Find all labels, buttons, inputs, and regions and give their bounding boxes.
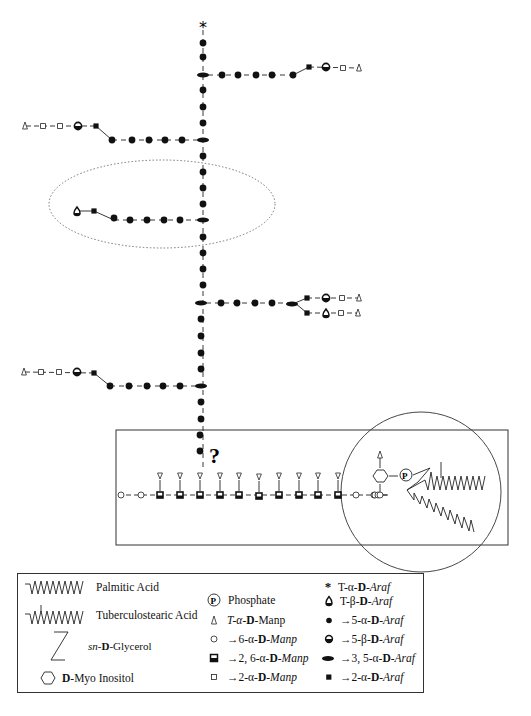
label-rest: -Manp [266, 633, 297, 645]
drop-icon [324, 595, 334, 607]
label-d: D [371, 671, 379, 683]
label-pre: →2, 6-α- [227, 652, 269, 664]
phosphate-icon: P [207, 593, 221, 607]
filled-circle-icon [324, 614, 334, 626]
star-icon: * [322, 579, 334, 595]
label-d: D [382, 652, 390, 664]
legend-myo-inositol: D-Myo Inositol [40, 671, 134, 685]
glycerol-icon [48, 630, 72, 662]
branch-4-right-forked [206, 294, 361, 318]
label-pre: T-α- [338, 581, 358, 593]
branch-2-left [23, 122, 198, 143]
label-pre: →6-α- [227, 633, 258, 645]
filled-square-icon [324, 671, 334, 683]
backbone-residues [195, 40, 209, 455]
legend-26-alpha-manp: →2, 6-α-D-Manp [209, 652, 308, 664]
label-prefix: sn- [88, 640, 101, 652]
label-pre: →5-α- [340, 614, 371, 626]
half-filled-circle-icon [324, 633, 334, 645]
pi-anchor: P [372, 451, 485, 532]
hexagon-icon [40, 671, 56, 685]
mannan-core-box [116, 430, 508, 545]
filled-ellipse-icon [321, 652, 335, 664]
legend-2-alpha-araf: →2-α-D-Araf [324, 671, 404, 683]
branch-5-left [22, 368, 196, 389]
fatty-acid-chain-2 [407, 490, 474, 532]
legend-t-alpha-araf: * T-α-D-Araf [322, 579, 390, 595]
label-rest: -Araf [391, 652, 415, 664]
palmitic-acid-icon [24, 578, 86, 596]
label-rest: -Manp [278, 652, 309, 664]
label-d: D [371, 614, 379, 626]
branch-3-left-circled [74, 207, 198, 223]
label-rest: -Araf [379, 633, 403, 645]
legend-t-alpha-manp: T-α-D-Manp [209, 614, 285, 626]
legend: Palmitic Acid Tuberculostearic Acid sn-D… [17, 573, 424, 693]
label-pre: →2-α- [340, 671, 371, 683]
label-pre: T-α- [227, 614, 246, 626]
legend-2-alpha-manp: →2-α-D-Manp [209, 671, 297, 683]
mannan-core-chain [118, 473, 388, 499]
label-rest: -Araf [379, 614, 403, 626]
legend-5-beta-araf: →5-β-D-Araf [324, 633, 403, 645]
fatty-acid-chain-1 [425, 472, 485, 490]
label-rest: -Myo Inositol [70, 672, 134, 684]
label-rest: -Manp [255, 614, 286, 626]
phosphate-label: P [402, 471, 408, 481]
label-rest: -Araf [368, 595, 392, 607]
label-pre: →3, 5-α- [340, 652, 382, 664]
highlight-ellipse [49, 160, 275, 248]
legend-35-alpha-araf: →3, 5-α-D-Araf [321, 652, 415, 664]
open-square-icon [209, 671, 219, 683]
half-filled-square-icon [209, 652, 219, 664]
label-d: D [269, 652, 277, 664]
label: Palmitic Acid [96, 581, 159, 593]
label-pre: →5-β- [340, 633, 371, 645]
legend-t-beta-araf: T-β-D-Araf [324, 595, 392, 607]
legend-6-alpha-manp: →6-α-D-Manp [209, 633, 297, 645]
legend-5-alpha-araf: →5-α-D-Araf [324, 614, 404, 626]
inositol-hexagon [373, 470, 388, 482]
open-circle-icon [209, 633, 219, 645]
legend-phosphate: P Phosphate [207, 593, 275, 607]
branch-1-right [208, 63, 361, 78]
label-rest: -Manp [266, 671, 297, 683]
legend-palmitic-acid: Palmitic Acid [24, 578, 159, 596]
label-d: D [358, 581, 366, 593]
label-pre: T-β- [340, 595, 359, 607]
legend-tuberculostearic-acid: Tuberculostearic Acid [24, 604, 197, 626]
triangle-icon [209, 614, 219, 626]
legend-glycerol: sn-D-Glycerol [48, 630, 152, 662]
label-d: D [258, 633, 266, 645]
label: Phosphate [228, 594, 275, 606]
terminal-star-marker: * [199, 18, 207, 37]
label-rest: -Araf [366, 581, 390, 593]
label-d: D [246, 614, 254, 626]
label-d: D [258, 671, 266, 683]
label-d: D [359, 595, 367, 607]
tuberculostearic-acid-icon [24, 604, 86, 626]
label-rest: -Araf [379, 671, 403, 683]
label-pre: →2-α- [227, 671, 258, 683]
pim-anchor-circle [341, 412, 501, 572]
label-d: D [371, 633, 379, 645]
svg-text:P: P [211, 596, 217, 606]
label-rest: -Glycerol [109, 640, 151, 652]
unknown-linkage-mark: ? [209, 443, 220, 468]
label: Tuberculostearic Acid [96, 609, 197, 621]
